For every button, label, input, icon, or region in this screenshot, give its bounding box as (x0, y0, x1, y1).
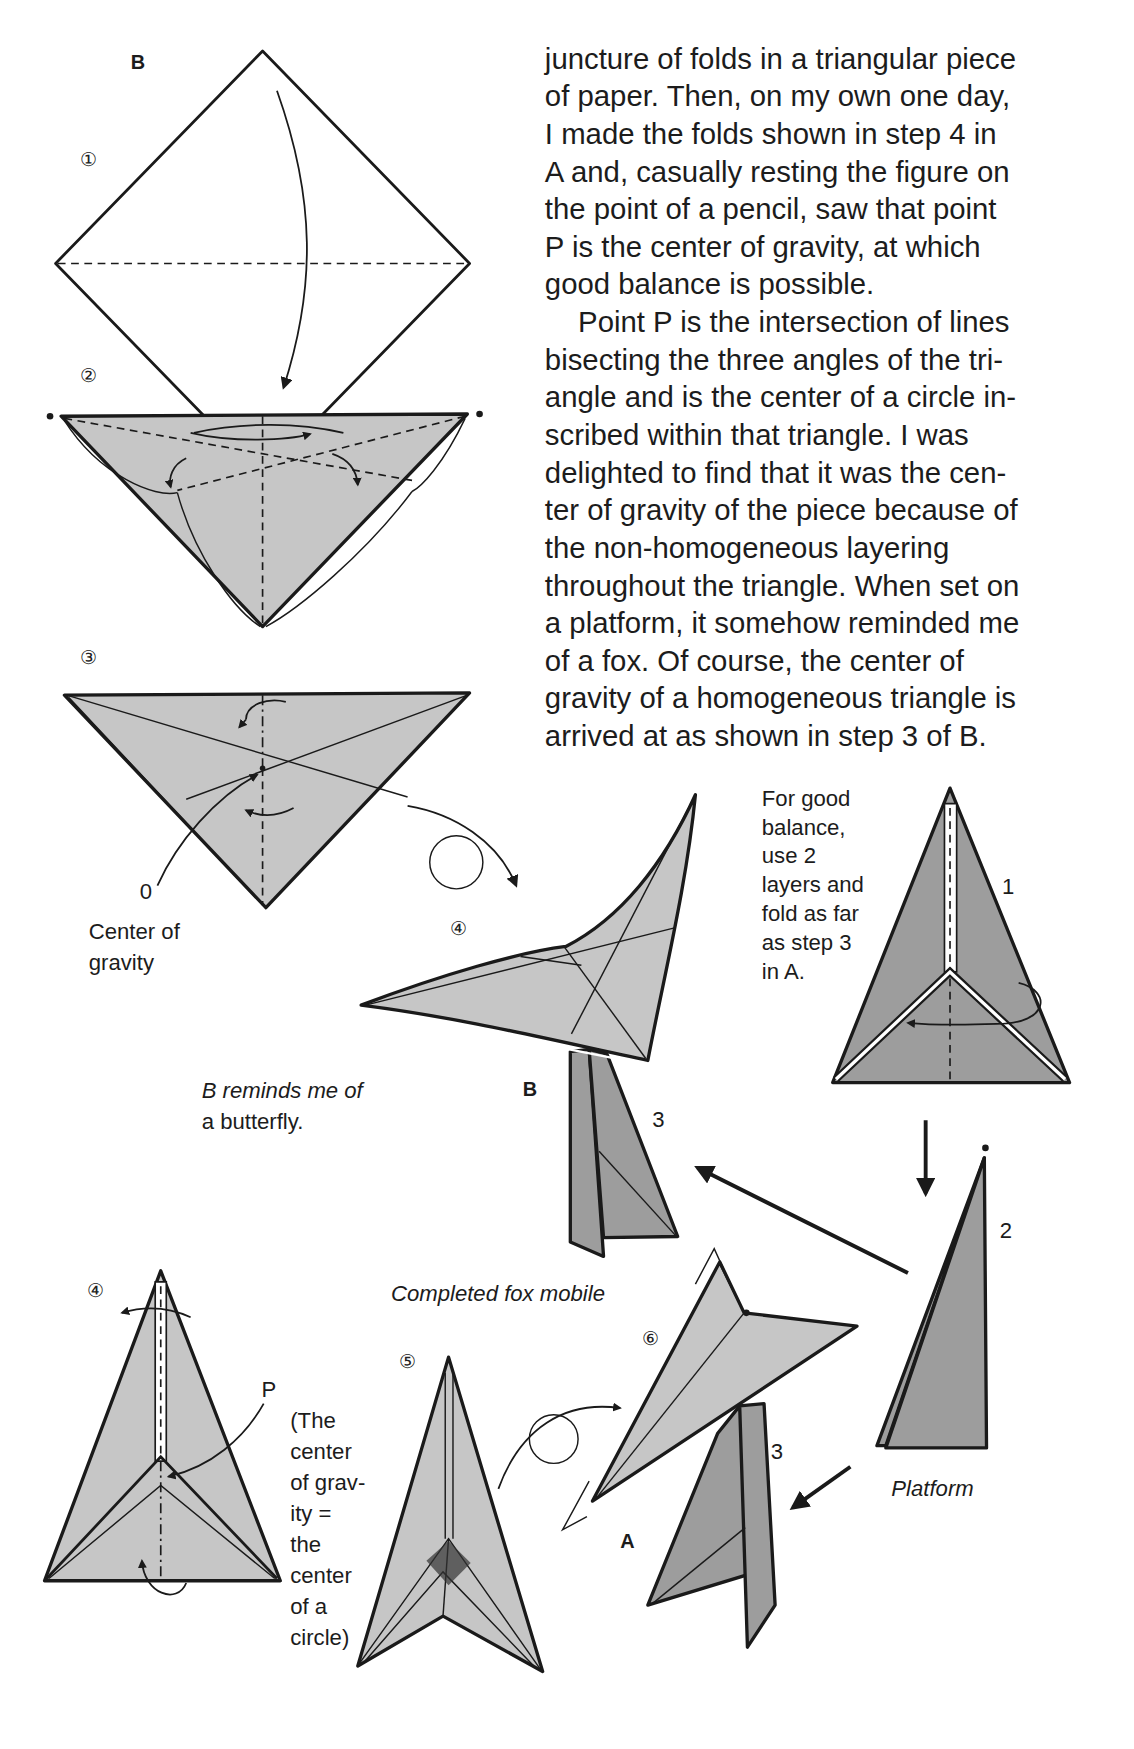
turn-over-circle-icon (529, 1415, 578, 1464)
balance-note-line: fold as far (762, 901, 859, 926)
balance-note-line: in A. (762, 959, 805, 984)
step-number-1: ① (80, 149, 97, 170)
center-of-gravity-caption: gravity (89, 950, 155, 975)
note-line: circle) (290, 1625, 349, 1650)
platform-caption: Platform (891, 1476, 973, 1501)
body-line: the point of a pencil, saw that point (545, 192, 997, 225)
step-number-6: ⑥ (642, 1328, 659, 1349)
center-point-icon (260, 765, 266, 771)
step-number-4: ④ (450, 918, 467, 939)
reference-dot-icon (47, 413, 54, 420)
note-line: of grav- (290, 1470, 365, 1495)
diagram-b-step3: ③ 0 Center of gravity (64, 647, 469, 975)
body-line: scribed within that triangle. I was (545, 418, 969, 451)
body-line: good balance is possible. (545, 267, 874, 300)
body-line: I made the folds shown in step 4 in (545, 117, 997, 150)
stand-triangle-step1: For good balance, use 2 layers and fold … (762, 786, 1070, 1193)
stand-number: 3 (652, 1107, 664, 1132)
turn-over-arrow-icon (498, 1407, 620, 1489)
body-line: ter of gravity of the piece because of (545, 493, 1019, 526)
butterfly-figure (361, 795, 695, 1061)
diagram-b-step1: B ① (56, 51, 470, 476)
body-line: of a fox. Of course, the center of (545, 644, 965, 677)
balance-note-line: as step 3 (762, 930, 852, 955)
label-a: A (620, 1530, 634, 1552)
note-line: the (290, 1532, 321, 1557)
body-line: angle and is the center of a circle in- (545, 380, 1016, 413)
platform-triangle (886, 1158, 987, 1448)
center-marker: 0 (140, 879, 152, 904)
body-line: of paper. Then, on my own one day, (545, 79, 1010, 112)
body-line: bisecting the three angles of the tri- (545, 343, 1003, 376)
point-p-dot-icon (743, 1310, 750, 1317)
balance-note-line: layers and (762, 872, 864, 897)
butterfly-caption: B reminds me of (202, 1078, 366, 1103)
arrow-shaped-paper (358, 1357, 543, 1671)
body-line: juncture of folds in a triangular piece (544, 42, 1016, 75)
arrow-to-a-icon (793, 1467, 851, 1508)
body-line: the non-homogeneous layering (545, 531, 949, 564)
step-number-3: ③ (80, 647, 97, 668)
diagram-a-step5: ⑤ (358, 1351, 620, 1671)
tail-guide-line (563, 1481, 590, 1530)
body-line: a platform, it somehow reminded me (545, 606, 1019, 639)
butterfly-caption: a butterfly. (202, 1109, 304, 1134)
stand-number: 2 (1000, 1218, 1012, 1243)
step-number-2: ② (80, 365, 97, 386)
note-line: ity = (290, 1501, 331, 1526)
balance-note-line: balance, (762, 815, 846, 840)
body-line: Point P is the intersection of lines (578, 305, 1009, 338)
step-number-5: ⑤ (399, 1351, 416, 1372)
stand-piece (589, 1049, 678, 1237)
balance-note-line: For good (762, 786, 851, 811)
point-p-label: P (261, 1377, 276, 1402)
reference-dot-icon (476, 411, 483, 418)
balance-note-line: use 2 (762, 843, 816, 868)
body-line: A and, casually resting the figure on (545, 155, 1010, 188)
turn-over-arrow-icon (408, 806, 516, 889)
section-b-label: B (131, 51, 145, 73)
arrow-to-b-icon (698, 1168, 908, 1273)
center-of-gravity-caption: Center of (89, 919, 181, 944)
body-line: gravity of a homogeneous triangle is (545, 681, 1016, 714)
body-line: throughout the triangle. When set on (545, 569, 1019, 602)
diagram-a-step4: ④ P (The center of grav- ity = the cente… (45, 1271, 366, 1650)
note-line: center (290, 1439, 352, 1464)
stand-number: 3 (771, 1439, 783, 1464)
note-line: center (290, 1563, 352, 1588)
book-page: juncture of folds in a triangular piece … (0, 0, 1134, 1749)
triangle-paper (64, 693, 469, 908)
diagram-a-step6-fox: ⑥ 3 A (563, 1249, 857, 1648)
body-line: P is the center of gravity, at which (545, 230, 981, 263)
label-b: B (523, 1078, 537, 1100)
completed-mobile-caption: Completed fox mobile (391, 1281, 605, 1306)
stand-number: 1 (1002, 874, 1014, 899)
step-number-4a: ④ (87, 1280, 104, 1301)
body-text-column: juncture of folds in a triangular piece … (544, 42, 1019, 752)
note-line: (The (290, 1408, 336, 1433)
page-illustration: juncture of folds in a triangular piece … (0, 0, 1134, 1749)
reference-dot-icon (982, 1145, 989, 1152)
body-line: arrived at as shown in step 3 of B. (545, 719, 987, 752)
body-line: delighted to find that it was the cen- (545, 456, 1006, 489)
folded-triangle (61, 414, 467, 627)
note-line: of a (290, 1594, 328, 1619)
